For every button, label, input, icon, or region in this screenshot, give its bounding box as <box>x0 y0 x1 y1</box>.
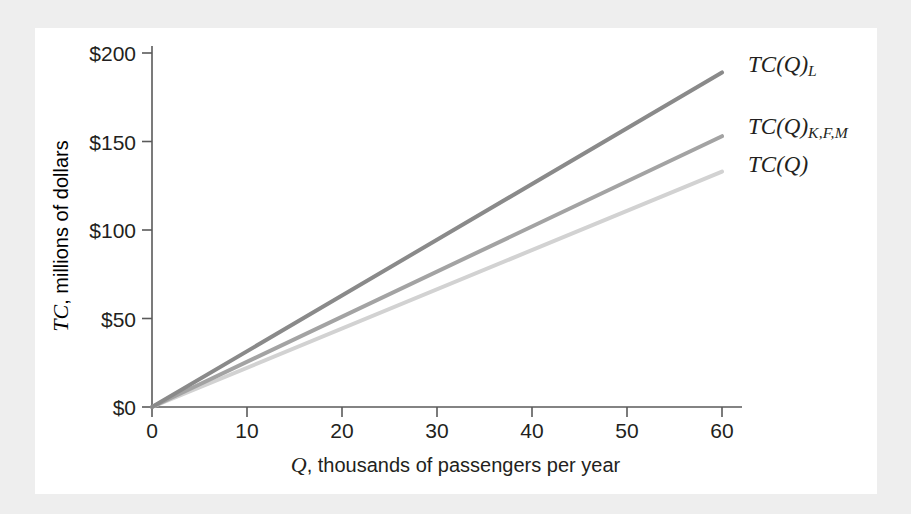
curve-label-tc-q: TC(Q) <box>748 152 808 180</box>
x-axis-title-text: , thousands of passengers per year <box>307 454 621 476</box>
x-axis-title-symbol: Q <box>291 452 307 477</box>
x-tick-label-20: 20 <box>312 419 372 443</box>
y-axis-title: TC, millions of dollars <box>48 96 76 376</box>
x-tick-label-10: 10 <box>217 419 277 443</box>
figure-container: $200 $150 $100 $50 $0 0 10 20 30 40 50 6… <box>0 0 911 514</box>
curve-label-tc-q-l-main: TC(Q) <box>748 52 808 77</box>
x-axis-title: Q, thousands of passengers per year <box>0 452 911 478</box>
y-axis-title-text: , millions of dollars <box>50 140 72 305</box>
y-axis-title-symbol: TC <box>48 305 73 332</box>
x-axis-ticks <box>152 407 722 417</box>
curve-label-tc-q-kfm-sub: K,F,M <box>808 124 848 141</box>
curve-label-tc-q-kfm-main: TC(Q) <box>748 114 808 139</box>
y-axis-ticks <box>142 53 152 407</box>
series-line-2 <box>152 172 722 407</box>
series-line-0 <box>152 72 722 407</box>
x-tick-label-50: 50 <box>597 419 657 443</box>
curve-label-tc-q-main: TC(Q) <box>748 152 808 177</box>
x-tick-label-60: 60 <box>692 419 752 443</box>
x-tick-label-0: 0 <box>122 419 182 443</box>
curve-label-tc-q-l-sub: L <box>808 62 817 79</box>
x-tick-label-40: 40 <box>502 419 562 443</box>
curve-label-tc-q-l: TC(Q)L <box>748 52 817 80</box>
curve-label-tc-q-kfm: TC(Q)K,F,M <box>748 114 848 142</box>
x-tick-label-30: 30 <box>407 419 467 443</box>
y-tick-label-0: $0 <box>46 396 136 420</box>
series-line-1 <box>152 136 722 407</box>
y-tick-label-200: $200 <box>46 42 136 66</box>
series-lines-group <box>152 72 722 407</box>
